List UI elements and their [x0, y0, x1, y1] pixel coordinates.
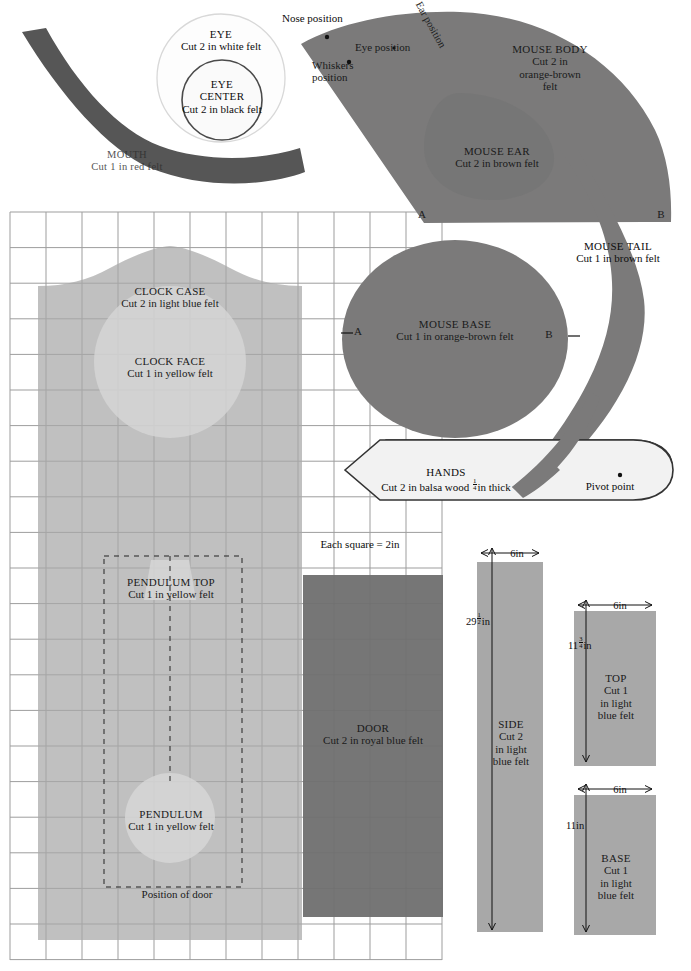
- eye-position-dot: [392, 46, 395, 49]
- nose-position-dot: [325, 35, 329, 39]
- pivot-point-dot: [618, 473, 622, 477]
- piece-pendulum-shape: [125, 773, 215, 863]
- pattern-shapes-layer: [0, 0, 691, 971]
- piece-clock-face-shape: [94, 286, 246, 438]
- piece-mouse-base-shape: [342, 240, 568, 438]
- piece-hands-shape: [345, 440, 673, 500]
- piece-side-shape: [477, 562, 543, 932]
- piece-door-shape: [303, 575, 443, 917]
- pattern-sheet: MOUTH Cut 1 in red felt EYE Cut 2 in whi…: [0, 0, 691, 971]
- whiskers-position-dot: [347, 60, 351, 64]
- piece-eye-center-shape: [182, 60, 262, 140]
